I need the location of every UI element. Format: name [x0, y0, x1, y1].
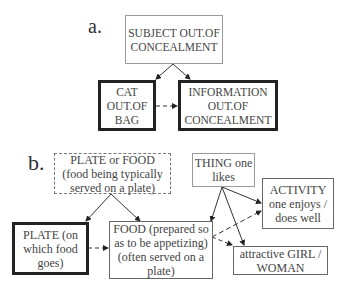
node-food: FOOD (prepared so as to be appetizing) (… [109, 221, 213, 279]
edge-food-activity [212, 211, 261, 237]
node-attractive-girl-woman: attractive GIRL / WOMAN [233, 246, 328, 275]
node-text: PLATE or FOOD (food being typically serv… [62, 153, 163, 195]
node-text: FOOD (prepared so as to be appetizing) (… [113, 222, 208, 278]
edge-subject-information [173, 64, 190, 79]
node-text: attractive GIRL / WOMAN [240, 247, 322, 275]
edge-platefood-food [111, 194, 140, 221]
node-plate-or-food: PLATE or FOOD (food being typically serv… [54, 153, 171, 194]
edge-subject-cat [156, 64, 173, 79]
edge-thing-food [211, 187, 222, 221]
node-subject-out-of-concealment: SUBJECT OUT.OF CONCEALMENT [125, 15, 223, 64]
node-information-out-of-concealment: INFORMATION OUT.OF CONCEALMENT [178, 80, 278, 131]
node-text: SUBJECT OUT.OF CONCEALMENT [128, 26, 220, 54]
node-text: PLATE (on which food goes) [23, 228, 78, 270]
edge-platefood-plate [86, 194, 111, 221]
node-activity: ACTIVITY one enjoys / does well [262, 178, 334, 229]
edge-thing-activity [222, 187, 261, 203]
node-cat-out-of-bag: CAT OUT.OF BAG [98, 80, 156, 131]
node-plate: PLATE (on which food goes) [12, 222, 89, 275]
edge-food-girl [212, 237, 232, 245]
node-thing-one-likes: THING one likes [192, 153, 255, 187]
node-text: INFORMATION OUT.OF CONCEALMENT [185, 85, 272, 127]
edge-thing-girl [222, 187, 244, 245]
panel-a-label: a. [88, 15, 102, 38]
node-text: THING one likes [195, 156, 253, 184]
node-text: ACTIVITY one enjoys / does well [269, 183, 327, 225]
panel-b-label: b. [28, 150, 45, 176]
node-text: CAT OUT.OF BAG [107, 85, 147, 127]
